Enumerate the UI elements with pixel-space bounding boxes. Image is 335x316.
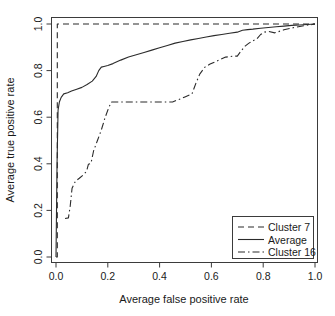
roc-chart-figure: 0.00.20.40.60.81.0 0.00.20.40.60.81.0 Av… bbox=[0, 0, 335, 316]
legend-label-cluster-16: Cluster 16 bbox=[268, 246, 316, 258]
roc-curve-cluster-16 bbox=[65, 24, 315, 219]
x-tick-label: 1.0 bbox=[308, 270, 323, 282]
y-axis-tickmarks bbox=[47, 24, 52, 257]
y-tick-label: 0.2 bbox=[32, 203, 44, 218]
x-tick-label: 0.2 bbox=[100, 270, 115, 282]
legend-label-cluster-7: Cluster 7 bbox=[268, 221, 310, 233]
y-axis-title: Average true positive rate bbox=[4, 77, 16, 202]
y-tick-label: 0.4 bbox=[32, 156, 44, 171]
x-tick-label: 0.0 bbox=[49, 270, 64, 282]
x-axis-tick-labels: 0.00.20.40.60.81.0 bbox=[49, 270, 323, 282]
roc-plot-svg: 0.00.20.40.60.81.0 0.00.20.40.60.81.0 Av… bbox=[0, 0, 335, 316]
x-tick-label: 0.8 bbox=[256, 270, 271, 282]
x-axis-tickmarks bbox=[56, 263, 315, 268]
y-axis-tick-labels: 0.00.20.40.60.81.0 bbox=[32, 17, 44, 265]
y-tick-label: 0.6 bbox=[32, 110, 44, 125]
y-tick-label: 0.8 bbox=[32, 63, 44, 78]
y-tick-label: 1.0 bbox=[32, 17, 44, 32]
legend-label-average: Average bbox=[268, 234, 307, 246]
x-tick-label: 0.4 bbox=[152, 270, 167, 282]
x-axis-title: Average false positive rate bbox=[119, 293, 248, 305]
legend: Cluster 7AverageCluster 16 bbox=[233, 217, 317, 259]
y-tick-label: 0.0 bbox=[32, 250, 44, 265]
x-tick-label: 0.6 bbox=[204, 270, 219, 282]
